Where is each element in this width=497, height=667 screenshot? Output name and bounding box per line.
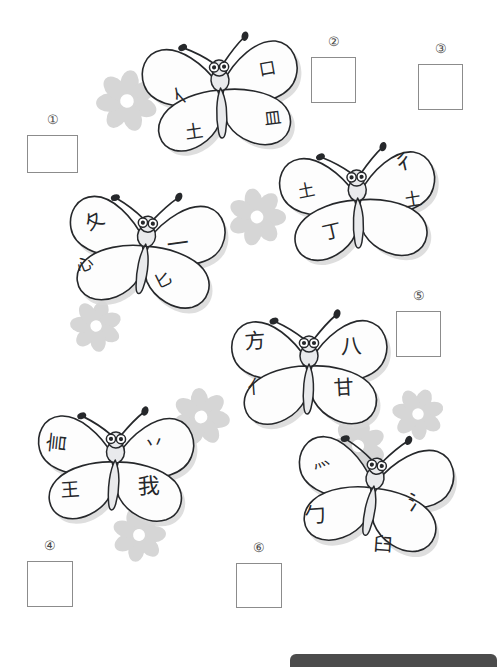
wing-character-upper-right: 口: [258, 59, 278, 79]
answer-box-5[interactable]: [396, 311, 441, 357]
answer-box-1[interactable]: [27, 135, 78, 173]
wing-character-upper-right: 一: [165, 232, 190, 257]
wing-character-upper-right: 氵: [408, 492, 430, 514]
butterfly-1: 亻口土皿: [127, 26, 315, 163]
footer-bar: [290, 654, 497, 667]
answer-slot-number-6: ⑥: [253, 541, 265, 554]
wing-character-lower-right: 皿: [263, 110, 282, 129]
answer-slot-6: ⑥: [236, 563, 282, 608]
answer-slot-2: ②: [311, 57, 356, 103]
answer-slot-number-1: ①: [47, 113, 59, 126]
wing-character-lower-right: 我: [137, 475, 160, 498]
answer-slot-number-4: ④: [44, 539, 56, 552]
answer-slot-4: ④: [27, 561, 73, 607]
answer-box-4[interactable]: [27, 561, 73, 607]
wing-character-lower-left: 丁: [321, 221, 344, 244]
answer-slot-5: ⑤: [396, 311, 441, 357]
wing-character-lower-right: 土: [403, 190, 424, 211]
wing-character-lower-left: 王: [60, 480, 80, 500]
wing-character-upper-right: 八: [340, 335, 362, 357]
wing-character-upper-right: 丷: [143, 432, 165, 454]
wing-character-upper-right: 彳: [391, 149, 416, 174]
wing-character-upper-left: 土: [297, 181, 317, 201]
answer-box-2[interactable]: [311, 57, 356, 103]
wing-character-lower-left: 土: [184, 122, 204, 142]
wing-character-lower-left: 勹: [304, 504, 326, 526]
answer-slot-number-2: ②: [328, 35, 340, 48]
answer-box-6[interactable]: [236, 563, 282, 608]
butterfly-5: 言丷王我: [23, 401, 207, 532]
wing-character-lower-right: 甘: [333, 376, 354, 397]
answer-slot-number-5: ⑤: [413, 289, 425, 302]
butterfly-2: 夂一心匕: [49, 179, 241, 322]
wing-character-upper-left: 方: [244, 330, 266, 352]
butterfly-4: 方八亻甘: [219, 308, 399, 433]
answer-slot-number-3: ③: [435, 42, 447, 55]
worksheet-page: 亻口土皿夂一心匕土彳丁土方八亻甘言丷王我灬氵勹臼 ①②③④⑤⑥: [0, 0, 497, 667]
answer-slot-3: ③: [418, 64, 463, 110]
wing-character-lower-left: 亻: [247, 376, 267, 396]
butterfly-6: 灬氵勹臼: [275, 418, 471, 567]
wing-character-upper-left: 言: [46, 431, 69, 454]
butterfly-3: 土彳丁土: [265, 137, 451, 271]
answer-box-3[interactable]: [418, 64, 463, 110]
wing-character-lower-right: 臼: [373, 534, 393, 554]
answer-slot-1: ①: [27, 135, 78, 173]
